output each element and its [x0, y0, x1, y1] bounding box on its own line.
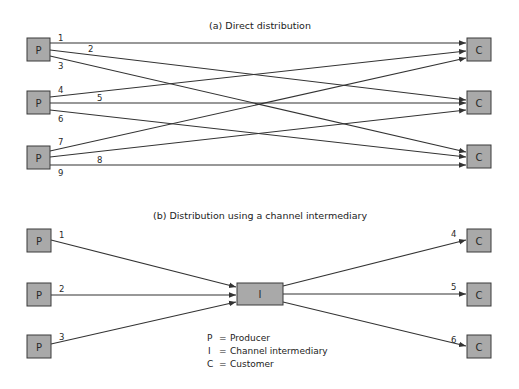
svg-text:P: P [207, 333, 213, 343]
customer-node: C [467, 283, 491, 306]
diagram-b-producers: P P P [27, 229, 51, 358]
link-number: 9 [58, 168, 63, 178]
diagram-b-customers: C C C [467, 229, 491, 358]
link-1 [51, 240, 236, 287]
svg-text:=: = [219, 333, 227, 343]
svg-text:C: C [207, 359, 213, 369]
svg-text:P: P [35, 45, 41, 56]
diagram-a-customers: C C C [467, 38, 491, 168]
customer-node: C [467, 38, 491, 61]
customer-node: C [467, 91, 491, 114]
link-number: 4 [58, 85, 63, 95]
link-number: 6 [451, 335, 456, 345]
link-number: 8 [97, 155, 102, 165]
link-number: 3 [59, 332, 64, 342]
svg-text:I: I [259, 289, 262, 300]
link-number: 2 [59, 284, 64, 294]
svg-text:C: C [476, 98, 483, 109]
customer-node: C [467, 145, 491, 168]
customer-node: C [467, 335, 491, 358]
link-number: 1 [59, 230, 64, 240]
svg-text:I: I [208, 346, 211, 356]
producer-node: P [27, 335, 51, 358]
link-number: 4 [451, 229, 456, 239]
svg-text:=: = [219, 359, 227, 369]
svg-text:C: C [476, 290, 483, 301]
svg-text:P: P [35, 153, 41, 164]
link-6 [283, 302, 466, 346]
diagram-a-producers: P P P [27, 38, 50, 169]
svg-text:Customer: Customer [230, 359, 274, 369]
producer-node: P [27, 38, 50, 61]
intermediary-node: I [237, 283, 283, 305]
link-number: 1 [58, 33, 63, 43]
svg-text:Channel intermediary: Channel intermediary [230, 346, 328, 356]
link-4 [283, 240, 466, 286]
producer-node: P [27, 283, 51, 306]
svg-text:P: P [35, 98, 41, 109]
producer-node: P [27, 146, 50, 169]
svg-text:C: C [476, 152, 483, 163]
link-number: 7 [58, 137, 63, 147]
diagram-a-lines [50, 43, 466, 165]
link-number: 2 [88, 44, 93, 54]
link-number: 5 [451, 282, 456, 292]
legend-item: I = Channel intermediary [208, 346, 328, 356]
svg-text:P: P [36, 342, 42, 353]
link-number: 6 [58, 114, 63, 124]
diagram-a-link-numbers: 1 2 3 4 5 6 7 8 9 [58, 33, 102, 178]
customer-node: C [467, 229, 491, 252]
diagram-a-title: (a) Direct distribution [209, 20, 311, 31]
svg-text:P: P [36, 290, 42, 301]
legend-item: C = Customer [207, 359, 274, 369]
svg-text:P: P [36, 236, 42, 247]
legend-item: P = Producer [207, 333, 270, 343]
svg-text:=: = [219, 346, 227, 356]
svg-text:C: C [476, 45, 483, 56]
producer-node: P [27, 229, 51, 252]
svg-text:C: C [476, 236, 483, 247]
legend: P = Producer I = Channel intermediary C … [207, 333, 328, 369]
link-number: 3 [58, 61, 63, 71]
diagram-b-title: (b) Distribution using a channel interme… [153, 210, 368, 221]
svg-text:Producer: Producer [230, 333, 270, 343]
svg-text:C: C [476, 342, 483, 353]
distribution-diagram: (a) Direct distribution 1 2 3 4 5 6 7 8 … [0, 0, 519, 389]
link-number: 5 [97, 93, 102, 103]
producer-node: P [27, 91, 50, 114]
